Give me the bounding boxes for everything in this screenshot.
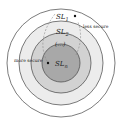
less-secure-label: less secure	[83, 24, 109, 29]
security-levels-diagram: SL1 SL2 (...) SLn less secure more secur…	[0, 0, 120, 126]
diagram-canvas: SL1 SL2 (...) SLn less secure more secur…	[0, 0, 120, 126]
less-secure-arrowhead-icon	[74, 15, 76, 17]
more-secure-arrowhead-icon	[47, 62, 49, 64]
more-secure-label: more secure	[14, 58, 43, 63]
label-intermediate: (...)	[55, 40, 66, 47]
